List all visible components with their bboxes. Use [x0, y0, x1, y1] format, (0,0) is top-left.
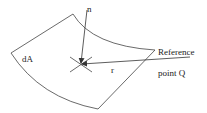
diagram-canvas: n dA r Reference point Q [0, 0, 207, 113]
normal-label: n [87, 5, 92, 14]
distance-vector-arrow [82, 57, 190, 64]
area-element-label: dA [22, 55, 33, 64]
reference-label-line2: point Q [158, 69, 185, 78]
normal-vector-arrow [81, 10, 87, 63]
reference-label-line1: Reference [158, 48, 194, 57]
center-point-cross [70, 57, 92, 72]
distance-label: r [111, 66, 114, 75]
